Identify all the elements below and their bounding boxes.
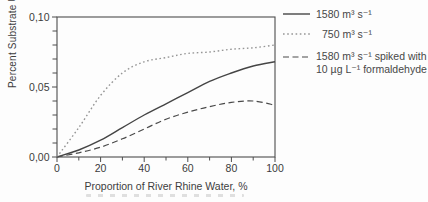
x-tick-label: 80: [226, 162, 238, 174]
x-tick-label: 40: [138, 162, 150, 174]
legend-label: 750 m³ s⁻¹: [316, 28, 372, 41]
y-tick-label: 0,00: [29, 151, 50, 163]
series-line-2: [57, 101, 275, 157]
scan-artifact: [86, 194, 244, 197]
y-axis-ticks: 0,000,050,10: [29, 11, 57, 163]
series-line-0: [57, 62, 275, 157]
y-tick-label: 0,05: [29, 81, 50, 93]
x-axis-title: Proportion of River Rhine Water, %: [57, 180, 275, 192]
legend-item-spiked: 1580 m³ s⁻¹ spiked with 10 µg L⁻¹ formal…: [283, 50, 428, 75]
x-axis-ticks: 020406080100: [54, 157, 284, 174]
x-tick-label: 0: [54, 162, 60, 174]
x-tick-label: 60: [182, 162, 194, 174]
y-tick-label: 0,10: [29, 11, 50, 23]
legend: 1580 m³ s⁻¹ 750 m³ s⁻¹ 1580 m³ s⁻¹ spike…: [283, 0, 428, 75]
dotted-line-icon: [283, 32, 310, 36]
legend-label-line2: 10 µg L⁻¹ formaldehyde: [316, 63, 427, 75]
plot-frame: [57, 17, 275, 157]
solid-line-icon: [283, 12, 310, 16]
x-tick-label: 20: [95, 162, 107, 174]
legend-label-line1: 1580 m³ s⁻¹ spiked with: [316, 50, 427, 62]
x-tick-label: 100: [266, 162, 284, 174]
line-chart-figure: 0204060801000,000,050,10 Percent Substra…: [0, 0, 428, 202]
legend-label: 1580 m³ s⁻¹ spiked with 10 µg L⁻¹ formal…: [316, 50, 427, 75]
legend-item-750: 750 m³ s⁻¹: [283, 28, 428, 41]
legend-label: 1580 m³ s⁻¹: [316, 8, 372, 21]
legend-item-1580: 1580 m³ s⁻¹: [283, 8, 428, 21]
dashed-line-icon: [283, 55, 310, 59]
